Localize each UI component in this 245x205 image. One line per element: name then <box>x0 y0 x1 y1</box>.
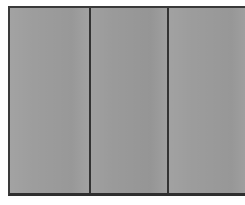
margin-left <box>0 0 8 205</box>
margin-bottom <box>0 199 245 205</box>
panel-middle-label: Middle panel <box>91 8 92 9</box>
divider-1-label: Divider between left and middle panel <box>89 8 90 9</box>
divider-2-label: Divider between middle and right panel <box>167 8 168 9</box>
panel-middle: Middle panel <box>91 8 167 193</box>
panel-left-label: Left panel <box>10 8 11 9</box>
panel-right-label: Right panel <box>169 8 170 9</box>
scanned-image-canvas: Left panel Divider between left and midd… <box>0 0 245 205</box>
panel-frame: Left panel Divider between left and midd… <box>8 6 245 196</box>
panel-left: Left panel <box>10 8 89 193</box>
image-caption: Three flat gray rectangular panels separ… <box>0 0 1 1</box>
panel-right: Right panel <box>169 8 245 193</box>
